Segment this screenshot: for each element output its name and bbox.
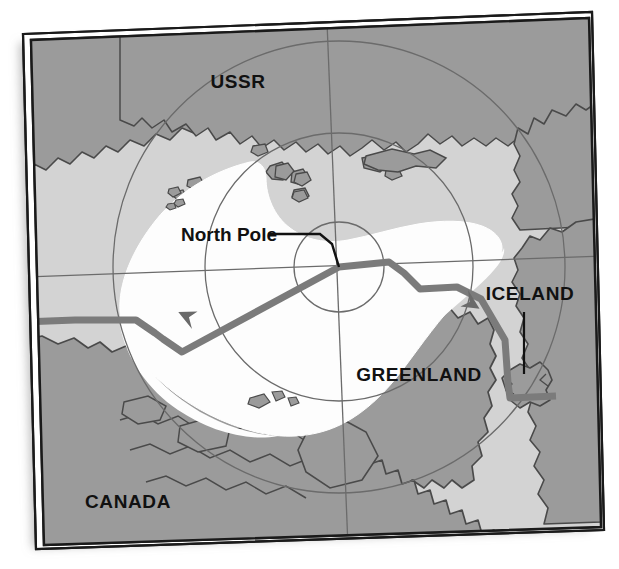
label-iceland: ICELAND bbox=[486, 283, 575, 304]
label-ussr: USSR bbox=[210, 71, 265, 92]
label-north-pole: North Pole bbox=[181, 224, 277, 245]
arctic-map-figure: USSR North Pole GREENLAND ICELAND CANADA bbox=[0, 0, 619, 569]
label-canada: CANADA bbox=[85, 491, 171, 512]
label-greenland: GREENLAND bbox=[356, 364, 482, 385]
map-body: USSR North Pole GREENLAND ICELAND CANADA bbox=[20, 8, 619, 568]
map-canvas: USSR North Pole GREENLAND ICELAND CANADA bbox=[0, 0, 619, 569]
